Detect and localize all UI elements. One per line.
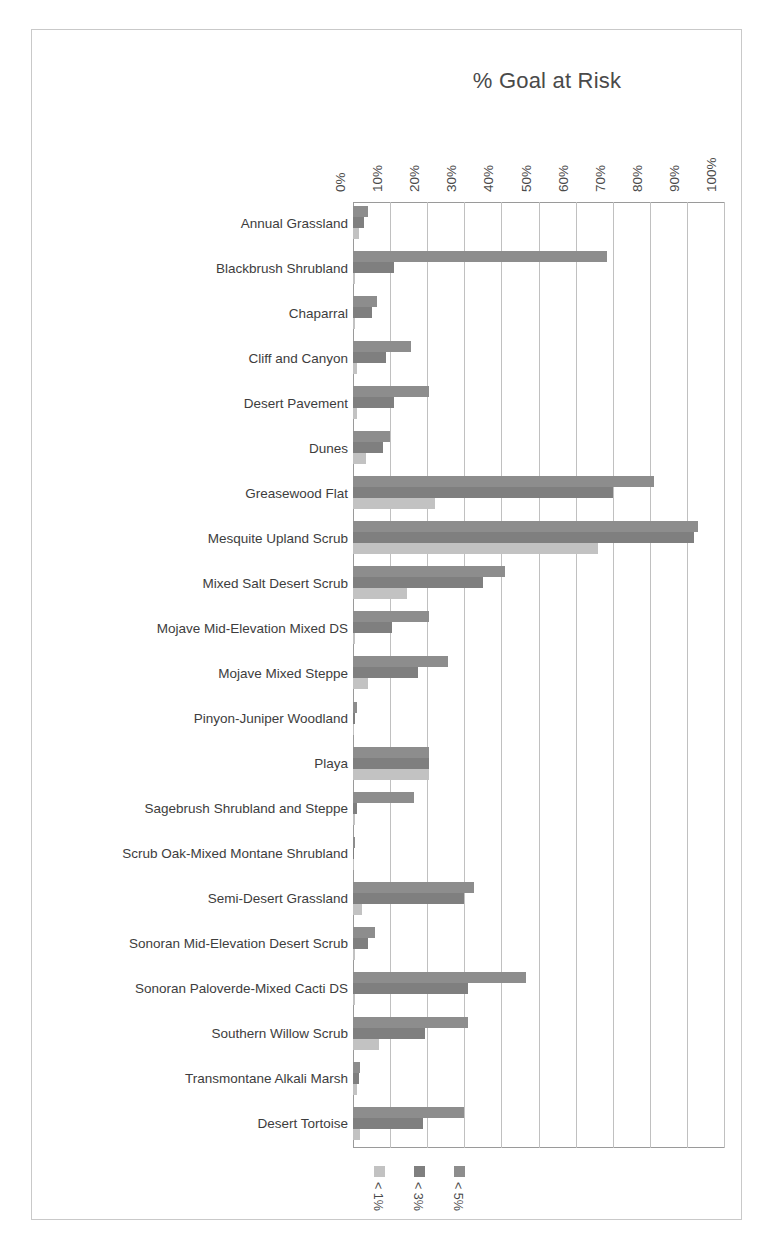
bar [353, 397, 394, 408]
bar-group [353, 472, 724, 517]
bar [353, 1017, 468, 1028]
bar [353, 352, 386, 363]
bar [353, 521, 698, 532]
bar [353, 792, 414, 803]
bar [353, 217, 364, 228]
bar [353, 859, 354, 870]
bar-group [353, 1058, 724, 1103]
bar [353, 611, 429, 622]
x-axis-tick-label: 20% [407, 165, 422, 192]
bar [353, 228, 359, 239]
category-label: Dunes [68, 441, 348, 456]
category-label: Sonoran Mid-Elevation Desert Scrub [68, 936, 348, 951]
bar [353, 837, 355, 848]
bar-group [353, 833, 724, 878]
bar [353, 667, 418, 678]
chart-frame: % Goal at Risk 0%10%20%30%40%50%60%70%80… [31, 29, 742, 1220]
bar [353, 206, 368, 217]
bar [353, 927, 375, 938]
legend-label: < 5% [451, 1182, 465, 1211]
category-label: Mixed Salt Desert Scrub [68, 576, 348, 591]
bar-group [353, 788, 724, 833]
category-label: Blackbrush Shrubland [68, 261, 348, 276]
bar [353, 949, 355, 960]
bar [353, 972, 526, 983]
bar-group [353, 247, 724, 292]
bar [353, 938, 368, 949]
x-axis-tick-label: 80% [630, 165, 645, 192]
bar-group [353, 698, 724, 743]
bar [353, 1039, 379, 1050]
x-axis-tick-labels: 0%10%20%30%40%50%60%70%80%90%100% [353, 130, 743, 192]
bar [353, 1129, 360, 1140]
bar [353, 893, 464, 904]
bar [353, 769, 429, 780]
legend-item[interactable]: < 1% [362, 1166, 402, 1246]
category-label: Mojave Mixed Steppe [68, 666, 348, 681]
bar [353, 532, 694, 543]
bar [353, 882, 474, 893]
bar [353, 543, 598, 554]
bar-group [353, 292, 724, 337]
legend-item[interactable]: < 3% [402, 1166, 442, 1246]
bar [353, 622, 392, 633]
bar [353, 296, 377, 307]
legend-swatch [374, 1166, 385, 1177]
bar [353, 656, 448, 667]
category-label: Cliff and Canyon [68, 351, 348, 366]
category-label: Sagebrush Shrubland and Steppe [68, 801, 348, 816]
x-axis-tick-label: 30% [444, 165, 459, 192]
bar [353, 408, 357, 419]
bar [353, 363, 357, 374]
gridline [724, 202, 725, 1148]
bar [353, 566, 505, 577]
bar [353, 803, 357, 814]
x-axis-tick-label: 0% [333, 172, 348, 192]
bar [353, 702, 357, 713]
bar-group [353, 562, 724, 607]
category-axis-labels: Annual GrasslandBlackbrush ShrublandChap… [68, 202, 348, 1148]
bar [353, 1118, 423, 1129]
bar-group [353, 652, 724, 697]
bar [353, 442, 383, 453]
x-axis-tick-label: 40% [481, 165, 496, 192]
category-label: Desert Tortoise [68, 1116, 348, 1131]
legend-label: < 3% [411, 1182, 425, 1211]
bar [353, 341, 411, 352]
bar [353, 307, 372, 318]
bar [353, 1084, 357, 1095]
category-label: Desert Pavement [68, 396, 348, 411]
legend-swatch [414, 1166, 425, 1177]
bar [353, 1062, 360, 1073]
bar-group [353, 743, 724, 788]
bar [353, 1107, 464, 1118]
bar [353, 1073, 359, 1084]
bar-group [353, 427, 724, 472]
x-axis-tick-label: 90% [667, 165, 682, 192]
bar [353, 814, 355, 825]
bar [353, 758, 429, 769]
category-label: Transmontane Alkali Marsh [68, 1071, 348, 1086]
bar [353, 262, 394, 273]
bar-group [353, 517, 724, 562]
bar [353, 386, 429, 397]
bar [353, 476, 654, 487]
category-label: Scrub Oak-Mixed Montane Shrubland [68, 846, 348, 861]
category-label: Pinyon-Juniper Woodland [68, 711, 348, 726]
category-label: Southern Willow Scrub [68, 1026, 348, 1041]
bar-group [353, 968, 724, 1013]
bar [353, 1028, 425, 1039]
x-axis-tick-label: 100% [704, 157, 719, 192]
legend-item[interactable]: < 5% [442, 1166, 482, 1246]
category-label: Sonoran Paloverde-Mixed Cacti DS [68, 981, 348, 996]
x-axis-tick-label: 10% [370, 165, 385, 192]
bar [353, 983, 468, 994]
bar [353, 994, 355, 1005]
bar [353, 724, 354, 735]
bar-group [353, 202, 724, 247]
bar [353, 273, 355, 284]
bar-group [353, 1013, 724, 1058]
category-label: Greasewood Flat [68, 486, 348, 501]
bar-group [353, 337, 724, 382]
bar-group [353, 1103, 724, 1148]
